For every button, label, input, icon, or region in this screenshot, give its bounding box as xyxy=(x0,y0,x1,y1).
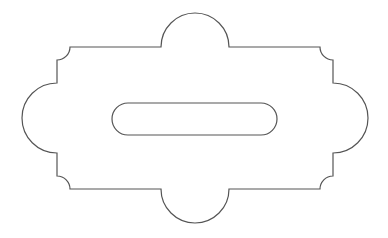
plaque-diagram xyxy=(0,0,388,238)
center-slot xyxy=(112,103,277,135)
diagram-canvas xyxy=(0,0,388,238)
